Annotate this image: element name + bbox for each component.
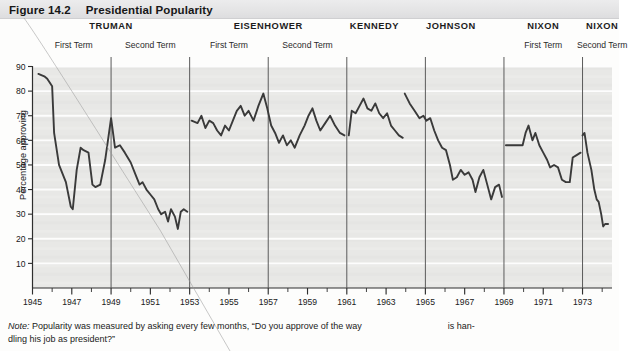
- texture-band: [33, 153, 613, 156]
- note-text-part3: dling his job as president?”: [8, 334, 115, 344]
- texture-band: [33, 282, 613, 285]
- texture-band: [33, 75, 613, 78]
- x-axis-tick-label: 1957: [259, 297, 278, 307]
- figure-note: Note: Popularity was measured by asking …: [8, 320, 608, 346]
- x-axis-tick-label: 1955: [219, 297, 238, 307]
- y-axis-tick-label: 10: [16, 259, 26, 269]
- texture-band: [33, 204, 613, 207]
- note-text-part2: is han-: [448, 321, 475, 331]
- x-axis-tick-label: 1967: [455, 297, 474, 307]
- x-axis-tick-label: 1963: [377, 297, 396, 307]
- texture-band: [33, 178, 613, 181]
- x-axis-tick-label: 1961: [337, 297, 356, 307]
- x-axis-tick-label: 1951: [141, 297, 160, 307]
- texture-band: [33, 230, 613, 233]
- x-axis-tick-label: 1969: [494, 297, 513, 307]
- texture-band: [33, 196, 613, 199]
- note-label: Note:: [8, 321, 30, 331]
- texture-band: [33, 256, 613, 259]
- y-axis-title: Percentage approving: [18, 85, 28, 225]
- texture-band: [33, 170, 613, 173]
- x-axis-tick-label: 1947: [62, 297, 81, 307]
- x-axis-tick-label: 1973: [573, 297, 592, 307]
- x-axis: 1945194719491951195319551957195919611963…: [23, 288, 612, 307]
- texture-band: [33, 101, 613, 104]
- y-axis-tick-label: 20: [16, 234, 26, 244]
- x-axis-tick-label: 1965: [416, 297, 435, 307]
- x-axis-tick-label: 1959: [298, 297, 317, 307]
- x-axis-tick-label: 1945: [23, 297, 42, 307]
- plot-background: [33, 67, 613, 289]
- texture-band: [33, 221, 613, 224]
- y-axis-tick-label: 90: [16, 62, 26, 72]
- x-axis-tick-label: 1953: [180, 297, 199, 307]
- x-axis-tick-label: 1971: [534, 297, 553, 307]
- x-axis-tick-label: 1949: [102, 297, 121, 307]
- texture-band: [33, 118, 613, 121]
- note-text-part1: Popularity was measured by asking every …: [32, 321, 362, 331]
- texture-band: [33, 110, 613, 113]
- texture-band: [33, 92, 613, 95]
- texture-band: [33, 247, 613, 250]
- texture-band: [33, 264, 613, 267]
- texture-band: [33, 161, 613, 164]
- texture-band: [33, 84, 613, 87]
- texture-band: [33, 273, 613, 276]
